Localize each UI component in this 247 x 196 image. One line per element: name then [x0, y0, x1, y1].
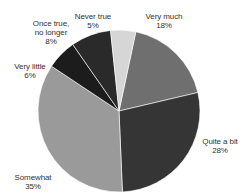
pie-slices — [38, 30, 200, 192]
label-text: Once true, — [33, 19, 69, 28]
slice-label-never-true: Never true5% — [75, 12, 111, 30]
label-text: 35% — [15, 182, 52, 191]
label-text: Never true — [75, 12, 111, 21]
label-text: 28% — [202, 146, 237, 155]
label-text: 8% — [33, 37, 69, 46]
label-text: Very little — [14, 62, 45, 71]
slice-label-very-little: Very little6% — [14, 62, 45, 80]
label-text: Somewhat — [15, 173, 52, 182]
label-text: 18% — [146, 21, 183, 30]
label-text: no longer — [33, 28, 69, 37]
slice-label-somewhat: Somewhat35% — [15, 173, 52, 191]
slice-label-very-much: Very much18% — [146, 12, 183, 30]
slice-label-quite-a-bit: Quite a bit28% — [202, 137, 237, 155]
slice-label-once-true-no-longer: Once true,no longer8% — [33, 19, 69, 46]
label-text: 5% — [75, 21, 111, 30]
label-text: Quite a bit — [202, 137, 237, 146]
label-text: Very much — [146, 12, 183, 21]
label-text: 6% — [14, 71, 45, 80]
